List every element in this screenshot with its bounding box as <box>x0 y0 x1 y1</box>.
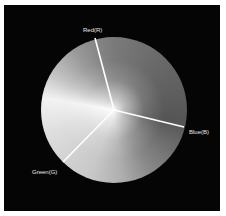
blue-divider-line <box>114 110 184 127</box>
blue-label: Blue(B) <box>189 129 209 136</box>
divider-lines <box>0 0 226 216</box>
red-label: Red(R) <box>83 27 102 34</box>
green-label: Green(G) <box>32 169 57 176</box>
red-divider-line <box>95 38 114 110</box>
green-divider-line <box>63 110 114 162</box>
